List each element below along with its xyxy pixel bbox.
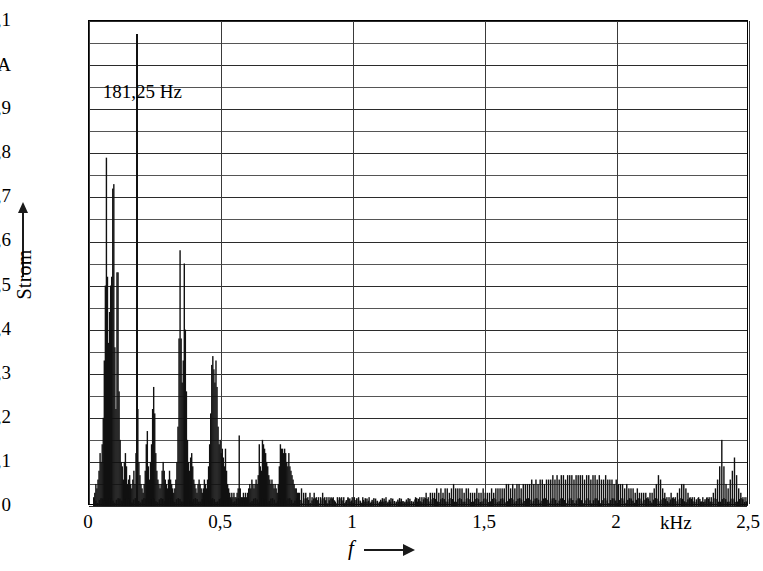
spectrum-noise-bar	[455, 502, 457, 506]
spectrum-noise-bar	[416, 498, 418, 506]
spectrum-noise-bar	[498, 501, 500, 506]
spectrum-noise-bar	[490, 501, 492, 506]
spectrum-noise-bar	[708, 499, 710, 506]
spectrum-noise-bar	[196, 499, 198, 506]
spectrum-noise-bar	[286, 501, 288, 506]
spectrum-noise-bar	[601, 500, 603, 506]
spectrum-noise-bar	[385, 501, 387, 506]
spectrum-noise-bar	[258, 502, 260, 506]
spectrum-noise-bar	[109, 498, 111, 506]
spectrum-bar	[721, 440, 722, 506]
spectrum-noise-bar	[383, 499, 385, 506]
spectrum-noise-bar	[320, 500, 322, 506]
spectrum-noise-bar	[365, 498, 367, 506]
spectrum-noise-bar	[589, 500, 591, 506]
spectrum-noise-bar	[304, 498, 306, 506]
spectrum-noise-bar	[375, 499, 377, 506]
spectrum-noise-bar	[131, 503, 133, 506]
spectrum-noise-bar	[613, 498, 615, 506]
spectrum-noise-bar	[431, 499, 433, 506]
spectrum-noise-bar	[123, 503, 125, 506]
spectrum-noise-bar	[153, 499, 155, 506]
spectrum-bar	[736, 475, 737, 506]
spectrum-noise-bar	[562, 498, 564, 506]
spectrum-noise-bar	[198, 502, 200, 506]
spectrum-noise-bar	[588, 498, 590, 506]
spectrum-noise-bar	[606, 500, 608, 506]
spectrum-noise-bar	[552, 499, 554, 507]
spectrum-noise-bar	[509, 499, 511, 506]
spectrum-noise-bar	[277, 501, 279, 506]
spectrum-bar	[548, 480, 549, 506]
spectrum-noise-bar	[279, 499, 281, 506]
x-axis-title: f	[348, 536, 458, 566]
spectrum-noise-bar	[660, 502, 662, 506]
spectrum-noise-bar	[672, 498, 674, 506]
spectrum-noise-bar	[210, 499, 212, 506]
spectrum-noise-bar	[148, 502, 150, 506]
spectrum-noise-bar	[701, 501, 703, 506]
spectrum-noise-bar	[243, 501, 245, 506]
spectrum-noise-bar	[157, 502, 159, 506]
spectrum-noise-bar	[409, 499, 411, 506]
spectrum-noise-bar	[740, 498, 742, 506]
spectrum-noise-bar	[649, 501, 651, 506]
spectrum-noise-bar	[282, 500, 284, 506]
spectrum-noise-bar	[402, 501, 404, 506]
spectrum-noise-bar	[663, 498, 665, 506]
spectrum-noise-bar	[272, 498, 274, 506]
spectrum-noise-bar	[603, 498, 605, 506]
spectrum-noise-bar	[538, 500, 540, 506]
spectrum-noise-bar	[114, 503, 116, 506]
spectrum-noise-bar	[433, 498, 435, 506]
spectrum-noise-bar	[353, 503, 355, 506]
spectrum-noise-bar	[596, 498, 598, 506]
spectrum-noise-bar	[183, 502, 185, 506]
spectrum-noise-bar	[327, 503, 329, 506]
spectrum-noise-bar	[466, 499, 468, 506]
spectrum-noise-bar	[474, 499, 476, 506]
spectrum-noise-bar	[560, 498, 562, 506]
spectrum-noise-bar	[450, 498, 452, 506]
spectrum-noise-bar	[177, 498, 179, 506]
spectrum-noise-bar	[371, 500, 373, 506]
spectrum-noise-bar	[534, 499, 536, 506]
spectrum-noise-bar	[361, 503, 363, 506]
spectrum-noise-bar	[117, 498, 119, 506]
spectrum-noise-bar	[651, 503, 653, 506]
spectrum-noise-bar	[716, 499, 718, 506]
spectrum-noise-bar	[299, 500, 301, 506]
spectrum-noise-bar	[181, 502, 183, 506]
spectrum-noise-bar	[630, 499, 632, 506]
spectrum-noise-bar	[315, 498, 317, 506]
y-tick-label: 0	[0, 495, 11, 514]
spectrum-noise-bar	[627, 500, 629, 506]
spectrum-noise-bar	[382, 498, 384, 506]
spectrum-noise-bar	[143, 498, 145, 506]
spectrum-noise-bar	[160, 498, 162, 506]
spectrum-noise-bar	[413, 502, 415, 506]
spectrum-noise-bar	[471, 502, 473, 506]
spectrum-noise-bar	[679, 499, 681, 506]
spectrum-noise-bar	[720, 502, 722, 506]
spectrum-noise-bar	[421, 502, 423, 506]
spectrum-noise-bar	[576, 500, 578, 506]
spectrum-noise-bar	[615, 501, 617, 506]
spectrum-noise-bar	[145, 499, 147, 506]
spectrum-noise-bar	[648, 499, 650, 506]
y-tick-label: 0,1	[0, 451, 11, 470]
spectrum-noise-bar	[105, 503, 107, 506]
spectrum-noise-bar	[229, 498, 231, 506]
x-tick-label: 2	[576, 512, 656, 531]
spectrum-noise-bar	[164, 501, 166, 506]
spectrum-noise-bar	[510, 498, 512, 506]
spectrum-noise-bar	[169, 498, 171, 506]
spectrum-noise-bar	[356, 498, 358, 506]
y-tick-label: 0,5	[0, 275, 11, 294]
spectrum-noise-bar	[337, 500, 339, 506]
spectrum-noise-bar	[691, 499, 693, 506]
spectrum-noise-bar	[557, 503, 559, 506]
spectrum-noise-bar	[176, 499, 178, 506]
y-tick-label: 0,9	[0, 98, 11, 117]
spectrum-noise-bar	[296, 498, 298, 506]
